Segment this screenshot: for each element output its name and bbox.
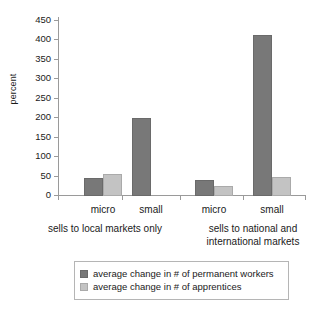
- legend-item: average change in # of permanent workers: [80, 268, 283, 280]
- y-axis-line: [58, 17, 59, 196]
- y-axis-tick-mark: [54, 117, 58, 118]
- y-axis-tick: 450: [24, 20, 58, 21]
- y-axis-tick: 400: [24, 39, 58, 40]
- bar-chart: percent 450400350300250200150100500 micr…: [0, 0, 330, 310]
- bar-permanent-workers: [132, 118, 151, 196]
- y-axis-tick-label: 100: [35, 149, 51, 162]
- bar-cluster: [253, 21, 291, 196]
- x-axis-tick-mark: [58, 196, 59, 200]
- x-axis-group-label: sells to local markets only: [30, 222, 180, 235]
- x-axis-tick-mark: [243, 196, 244, 200]
- bar-permanent-workers: [195, 180, 214, 196]
- bar-permanent-workers: [84, 178, 103, 196]
- plot-area: 450400350300250200150100500: [58, 21, 306, 196]
- bar-cluster: [84, 21, 122, 196]
- y-axis-tick-mark: [54, 98, 58, 99]
- y-axis-tick-label: 50: [40, 169, 51, 182]
- legend-swatch-apprentices: [80, 283, 88, 291]
- legend-item: average change in # of apprentices: [80, 281, 283, 293]
- x-axis-category-label: small: [242, 204, 302, 215]
- y-axis-tick-label: 150: [35, 130, 51, 143]
- y-axis-tick-mark: [54, 39, 58, 40]
- y-axis-tick: 250: [24, 98, 58, 99]
- bar-apprentices: [214, 186, 233, 197]
- y-axis-tick: 300: [24, 78, 58, 79]
- legend-swatch-permanent-workers: [80, 270, 88, 278]
- legend-label-permanent-workers: average change in # of permanent workers: [93, 268, 274, 280]
- bar-apprentices: [272, 177, 291, 196]
- y-axis-tick: 100: [24, 156, 58, 157]
- legend: average change in # of permanent workers…: [74, 261, 289, 300]
- y-axis-tick: 50: [24, 176, 58, 177]
- x-axis-tick-mark: [122, 196, 123, 200]
- y-axis-tick-label: 0: [46, 188, 51, 201]
- y-axis-tick-mark: [54, 59, 58, 60]
- x-axis-tick-mark: [180, 196, 181, 200]
- y-axis-tick-label: 250: [35, 91, 51, 104]
- y-axis-tick-label: 200: [35, 110, 51, 123]
- y-axis-tick: 150: [24, 137, 58, 138]
- y-axis-tick-label: 300: [35, 71, 51, 84]
- y-axis-tick: 350: [24, 59, 58, 60]
- y-axis-tick-mark: [54, 78, 58, 79]
- y-axis-tick-label: 350: [35, 52, 51, 65]
- y-axis-tick-mark: [54, 156, 58, 157]
- legend-label-apprentices: average change in # of apprentices: [93, 281, 241, 293]
- bar-permanent-workers: [253, 35, 272, 196]
- bar-cluster: [132, 21, 170, 196]
- y-axis-title: percent: [8, 54, 18, 124]
- bar-apprentices: [103, 174, 122, 196]
- bar-cluster: [195, 21, 233, 196]
- y-axis-tick-mark: [54, 137, 58, 138]
- y-axis-tick: 200: [24, 117, 58, 118]
- y-axis-tick-mark: [54, 20, 58, 21]
- x-axis-tick-mark: [305, 196, 306, 200]
- y-axis-tick: 0: [24, 195, 58, 196]
- y-axis-tick-label: 400: [35, 32, 51, 45]
- x-axis-category-label: micro: [184, 204, 244, 215]
- y-axis-tick-mark: [54, 176, 58, 177]
- y-axis-tick-label: 450: [35, 13, 51, 26]
- x-axis-group-label: sells to national andinternational marke…: [178, 222, 328, 248]
- x-axis-category-label: small: [121, 204, 181, 215]
